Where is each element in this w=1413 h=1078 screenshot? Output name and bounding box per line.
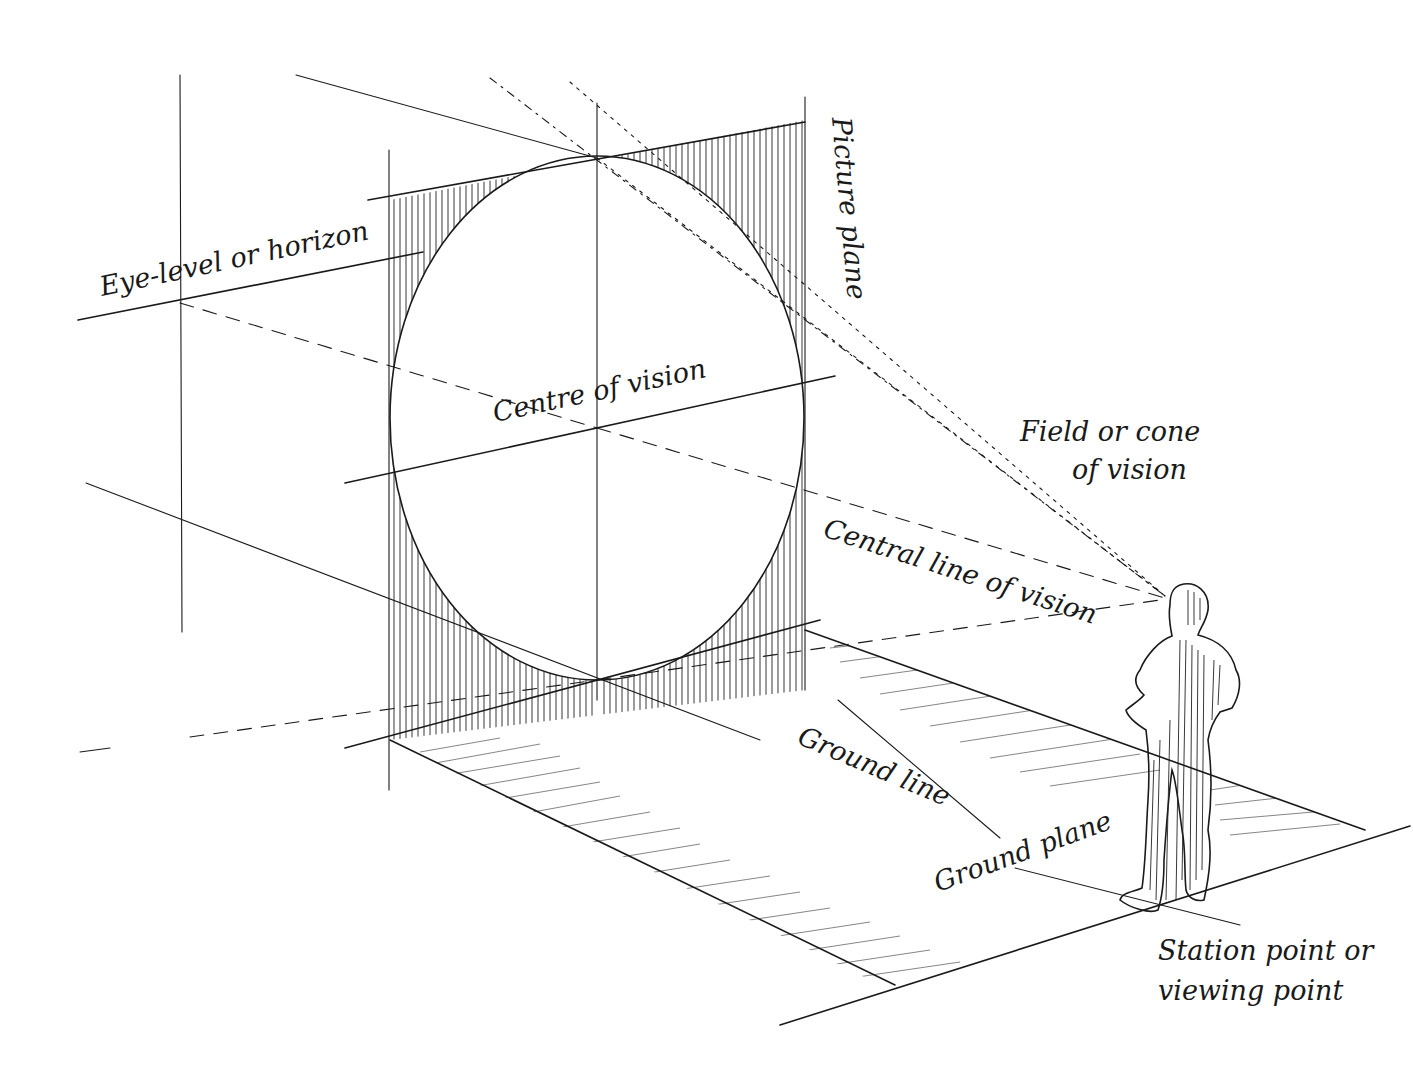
far-left-dash <box>80 748 110 752</box>
field-of-vision-line-2 <box>570 82 1165 596</box>
viewer-figure <box>1120 584 1239 911</box>
picture-plane-hatching <box>394 120 802 760</box>
perspective-diagram: Eye-level or horizon Picture plane Centr… <box>0 0 1413 1078</box>
label-field-of-vision-2: of vision <box>1072 454 1187 485</box>
lower-dashed-line <box>190 680 597 737</box>
top-sight-line <box>296 75 597 158</box>
picture-plane <box>345 97 820 790</box>
label-picture-plane: Picture plane <box>826 115 873 301</box>
label-field-of-vision-1: Field or cone <box>1019 416 1200 447</box>
label-ground-line: Ground line <box>794 720 955 812</box>
label-station-point-2: viewing point <box>1158 975 1343 1006</box>
label-central-line-of-vision: Central line of vision <box>820 512 1101 630</box>
left-vertical-guide <box>180 75 182 632</box>
label-ground-plane: Ground plane <box>929 805 1115 898</box>
label-station-point-1: Station point or <box>1158 935 1375 966</box>
lower-sight-line <box>86 483 760 740</box>
